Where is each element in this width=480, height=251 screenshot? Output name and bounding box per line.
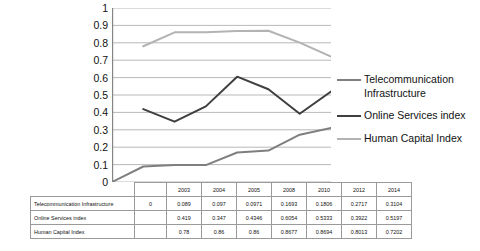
y-axis-tick-label: 0.8 [93, 38, 108, 48]
legend-color-swatch [337, 115, 361, 117]
table-header: 2003200420052008201020122014 [31, 183, 412, 197]
legend-color-swatch [337, 79, 361, 81]
table-cell [135, 225, 167, 239]
y-axis-tick-label: 0.6 [93, 73, 108, 83]
y-axis-tick-label: 0.4 [93, 107, 108, 117]
table-row: Telecommunication Infrastructure00.0890.… [31, 197, 412, 211]
table-header-cell: 2012 [342, 183, 377, 197]
table-row: Online Services index0.4190.3470.43460.6… [31, 211, 412, 225]
table-cell: 0.1806 [307, 197, 342, 211]
table-cell: 0.0971 [237, 197, 272, 211]
table-cell: 0.3922 [342, 211, 377, 225]
legend-label: Human Capital Index [364, 132, 462, 146]
y-axis-tick-label: 0.9 [93, 20, 108, 30]
table-cell: 0.2717 [342, 197, 377, 211]
table-row: Human Capital Index0.780.860.860.86770.8… [31, 225, 412, 239]
series-line [112, 128, 331, 182]
table-cell: 0.1693 [272, 197, 307, 211]
table-corner-blank [31, 183, 135, 197]
y-axis-tick-label: 0.5 [93, 90, 108, 100]
table-row-label: Telecommunication Infrastructure [31, 197, 135, 211]
table-header-cell: 2004 [202, 183, 237, 197]
table-header-cell: 2008 [272, 183, 307, 197]
gridlines [112, 8, 331, 182]
series-line [143, 31, 331, 57]
y-axis-tick-label: 0.7 [93, 55, 108, 65]
table-header-cell: 2003 [167, 183, 202, 197]
table-cell: 0.8694 [307, 225, 342, 239]
table-cell: 0.8013 [342, 225, 377, 239]
table-cell: 0.3104 [377, 197, 412, 211]
table-row-label: Online Services index [31, 211, 135, 225]
legend-label: Online Services index [364, 109, 466, 123]
line-chart-svg [112, 8, 331, 182]
table-header-cell: 2014 [377, 183, 412, 197]
table-cell: 0.7202 [377, 225, 412, 239]
table-cell: 0.097 [202, 197, 237, 211]
data-table: 2003200420052008201020122014 Telecommuni… [30, 182, 412, 239]
table-header-cell [135, 183, 167, 197]
table-header-row: 2003200420052008201020122014 [31, 183, 412, 197]
y-axis-tick-label: 0.1 [93, 160, 108, 170]
legend-item[interactable]: Telecommunication Infrastructure [337, 73, 477, 100]
y-axis-tick-label: 0.3 [93, 125, 108, 135]
table-cell: 0.419 [167, 211, 202, 225]
table-cell: 0.6054 [272, 211, 307, 225]
y-axis-labels: 10.90.80.70.60.50.40.30.20.10 [78, 8, 108, 182]
legend-label: Telecommunication Infrastructure [364, 73, 476, 100]
table-header-cell: 2010 [307, 183, 342, 197]
axis-lines [112, 8, 113, 182]
table-header-cell: 2005 [237, 183, 272, 197]
table-cell: 0.347 [202, 211, 237, 225]
legend-item[interactable]: Human Capital Index [337, 132, 477, 146]
y-axis-tick-label: 0.2 [93, 142, 108, 152]
y-axis-tick-label: 1 [102, 3, 108, 13]
table-cell: 0.86 [202, 225, 237, 239]
chart-figure: 10.90.80.70.60.50.40.30.20.10 Telecommun… [0, 0, 480, 251]
table-body: Telecommunication Infrastructure00.0890.… [31, 197, 412, 239]
chart-legend: Telecommunication InfrastructureOnline S… [337, 73, 477, 154]
table-cell [135, 211, 167, 225]
table-cell: 0.8677 [272, 225, 307, 239]
table-cell: 0.86 [237, 225, 272, 239]
table-cell: 0.4346 [237, 211, 272, 225]
table-cell: 0.089 [167, 197, 202, 211]
data-series [112, 31, 331, 182]
table-row-label: Human Capital Index [31, 225, 135, 239]
plot-area [112, 8, 331, 182]
legend-item[interactable]: Online Services index [337, 109, 477, 123]
table-cell: 0.5197 [377, 211, 412, 225]
table-cell: 0.78 [167, 225, 202, 239]
table-cell: 0 [135, 197, 167, 211]
legend-color-swatch [337, 138, 361, 140]
table-cell: 0.5333 [307, 211, 342, 225]
series-line [143, 77, 331, 122]
